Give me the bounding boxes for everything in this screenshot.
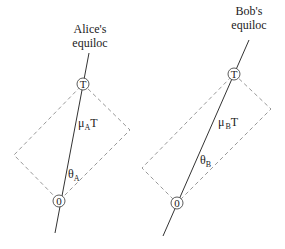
bob-equiloc-group: Bob's equiloc T 0 μBT θB bbox=[142, 4, 271, 236]
bob-length-label: μBT bbox=[218, 115, 239, 131]
equiloc-diagram: Alice's equiloc T 0 μAT θA Bob's equiloc… bbox=[0, 0, 285, 249]
bob-angle-label: θB bbox=[200, 153, 211, 169]
bob-dashed-rectangle bbox=[142, 74, 271, 203]
alice-angle-label: θA bbox=[68, 167, 80, 183]
bob-mu: μ bbox=[218, 115, 224, 129]
bob-mu-tail: T bbox=[231, 115, 239, 129]
bob-theta-sub: B bbox=[206, 160, 211, 169]
bob-title-line1: Bob's bbox=[236, 4, 263, 18]
alice-mu-tail: T bbox=[90, 116, 98, 130]
bob-top-node-label: T bbox=[231, 68, 238, 80]
bob-bottom-node-label: 0 bbox=[174, 197, 180, 209]
alice-theta-sub: A bbox=[74, 174, 80, 183]
alice-length-label: μAT bbox=[78, 116, 98, 132]
alice-equiloc-group: Alice's equiloc T 0 μAT θA bbox=[14, 22, 130, 233]
alice-top-node-label: T bbox=[80, 78, 87, 90]
alice-title-line1: Alice's bbox=[74, 22, 107, 36]
alice-title-line2: equiloc bbox=[72, 36, 107, 50]
alice-bottom-node-label: 0 bbox=[56, 195, 62, 207]
bob-title-line2: equiloc bbox=[231, 18, 266, 32]
